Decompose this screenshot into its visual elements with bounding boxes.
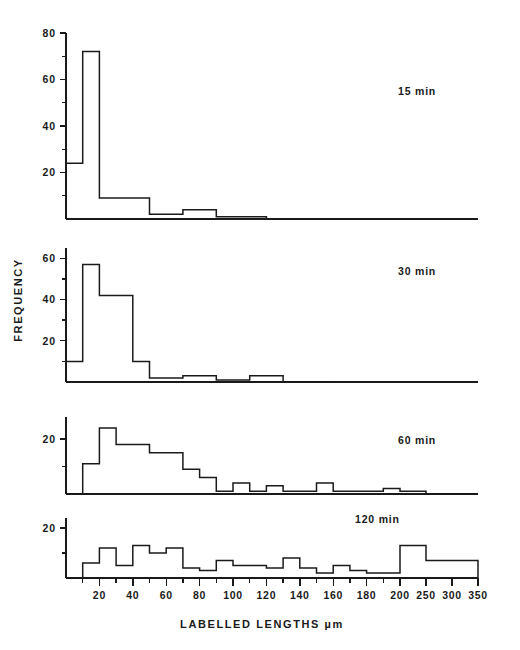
y-tick-label-0-1: 40 xyxy=(43,120,56,132)
histogram-figure: 2040608015 min20406030 min2060 min20120 … xyxy=(0,0,520,650)
x-tick-label-10: 250 xyxy=(416,589,436,601)
y-tick-label-3-0: 20 xyxy=(43,522,56,534)
panel-label-2: 60 min xyxy=(398,434,436,446)
y-tick-label-2-0: 20 xyxy=(43,433,56,445)
figure-container: 2040608015 min20406030 min2060 min20120 … xyxy=(0,0,520,650)
y-tick-label-1-2: 60 xyxy=(43,252,56,264)
y-axis-title: FREQUENCY xyxy=(12,258,24,341)
x-tick-label-1: 40 xyxy=(126,589,139,601)
x-tick-label-7: 160 xyxy=(323,589,343,601)
y-tick-label-0-0: 20 xyxy=(43,166,56,178)
panel-label-0: 15 min xyxy=(398,85,436,97)
x-tick-label-12: 350 xyxy=(468,589,488,601)
panel-label-3: 120 min xyxy=(355,513,400,525)
x-tick-label-2: 60 xyxy=(160,589,173,601)
y-tick-label-1-1: 40 xyxy=(43,293,56,305)
panel-label-1: 30 min xyxy=(398,265,436,277)
x-axis-group: 20406080100120140160180200250300350 xyxy=(83,578,488,601)
x-tick-label-0: 20 xyxy=(93,589,106,601)
panel-1: 20406030 min xyxy=(43,248,478,382)
x-tick-label-4: 100 xyxy=(223,589,243,601)
x-tick-label-11: 300 xyxy=(442,589,462,601)
panel-0: 2040608015 min xyxy=(43,27,478,219)
y-tick-label-0-3: 80 xyxy=(43,27,56,39)
histogram-outline-0 xyxy=(66,52,266,219)
y-tick-label-1-0: 20 xyxy=(43,335,56,347)
panel-group: 2040608015 min20406030 min2060 min20120 … xyxy=(43,27,478,578)
x-axis-title: LABELLED LENGTHS µm xyxy=(180,618,344,630)
panel-2: 2060 min xyxy=(43,417,478,494)
histogram-outline-1 xyxy=(66,264,333,382)
x-tick-label-8: 180 xyxy=(357,589,377,601)
panel-3: 20120 min xyxy=(43,513,478,578)
y-tick-label-0-2: 60 xyxy=(43,73,56,85)
x-tick-label-6: 140 xyxy=(290,589,310,601)
histogram-outline-3 xyxy=(66,546,478,579)
x-tick-label-3: 80 xyxy=(193,589,206,601)
x-tick-label-5: 120 xyxy=(257,589,277,601)
x-tick-label-9: 200 xyxy=(390,589,410,601)
